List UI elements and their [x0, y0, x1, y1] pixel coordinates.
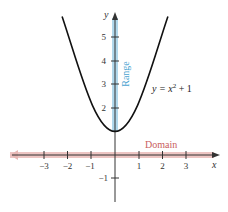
- y-tick-label: 4: [102, 56, 107, 66]
- x-tick-label: 3: [184, 161, 189, 171]
- y-axis-label: y: [103, 9, 109, 20]
- y-axis-arrow-icon: [112, 12, 118, 20]
- x-tick-label: −2: [63, 161, 73, 171]
- domain-label: Domain: [145, 139, 177, 150]
- y-tick-label: 3: [102, 79, 107, 89]
- y-tick-label: −1: [98, 173, 108, 183]
- y-tick-label: 5: [102, 32, 107, 42]
- x-axis-arrow-icon: [212, 152, 220, 158]
- x-axis-label: x: [211, 159, 217, 170]
- x-tick-label: −1: [85, 161, 95, 171]
- x-tick-label: 1: [137, 161, 142, 171]
- range-label: Range: [120, 61, 131, 87]
- x-tick-label: 2: [160, 161, 165, 171]
- graph: −3 −2 −1 1 2 3 5 4 3 2 −1 x y y = x2 + 1…: [0, 0, 228, 212]
- y-tick-label: 2: [102, 103, 107, 113]
- equation-label: y = x2 + 1: [151, 82, 192, 94]
- x-tick-label: −3: [39, 161, 49, 171]
